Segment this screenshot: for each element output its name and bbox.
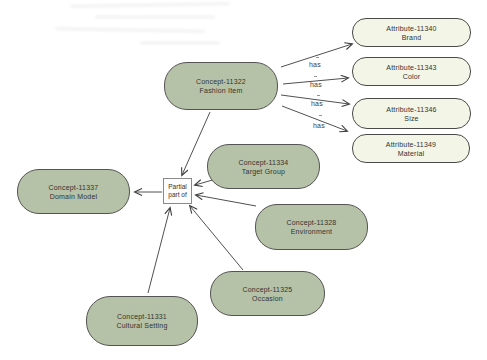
node-attribute-color[interactable]: Attribute-11343 Color [352, 57, 471, 86]
concept-map-canvas: has has has has Concept-11322 Fashion It… [0, 0, 487, 360]
edge-label-has: has [313, 122, 325, 129]
node-label: Color [403, 72, 421, 81]
node-label: Occasion [252, 294, 283, 303]
node-attribute-material[interactable]: Attribute-11349 Material [352, 134, 470, 163]
node-label: Brand [402, 33, 422, 42]
node-cultural-setting[interactable]: Concept-11331 Cultural Setting [86, 296, 198, 346]
node-label: Domain Model [50, 192, 98, 201]
node-label: Fashion Item [200, 86, 243, 95]
relation-box-partial-part-of[interactable]: Partial part of [163, 178, 192, 204]
node-code: Concept-11322 [196, 77, 246, 86]
node-code: Attribute-11349 [386, 140, 436, 149]
node-code: Concept-11337 [49, 183, 99, 192]
node-attribute-brand[interactable]: Attribute-11340 Brand [352, 18, 471, 47]
node-label: Target Group [242, 167, 285, 176]
edge-occasion-to-partial-box [190, 206, 243, 270]
speck [316, 57, 319, 58]
node-occasion[interactable]: Concept-11325 Occasion [210, 271, 325, 316]
node-target-group[interactable]: Concept-11334 Target Group [207, 144, 320, 189]
speck [317, 95, 320, 96]
relation-box-line1: Partial [168, 183, 186, 191]
edge-environment-to-partial-box [196, 195, 256, 206]
node-label: Environment [291, 227, 333, 236]
node-label: Material [398, 149, 425, 158]
node-label: Cultural Setting [116, 321, 167, 330]
node-environment[interactable]: Concept-11328 Environment [255, 204, 368, 250]
node-code: Concept-11331 [117, 312, 167, 321]
edge-label-has: has [311, 100, 323, 107]
node-attribute-size[interactable]: Attribute-11346 Size [352, 98, 471, 129]
edge-label-has: has [310, 81, 322, 88]
node-domain-model[interactable]: Concept-11337 Domain Model [17, 169, 130, 214]
relation-box-line2: part of [168, 191, 186, 199]
node-code: Attribute-11346 [386, 105, 436, 114]
speck [314, 76, 317, 77]
edge-fashion-item-to-partial-box [182, 112, 210, 175]
speck [319, 115, 322, 116]
node-code: Concept-11328 [287, 218, 337, 227]
node-code: Attribute-11343 [386, 63, 436, 72]
node-code: Concept-11334 [239, 158, 289, 167]
node-fashion-item[interactable]: Concept-11322 Fashion Item [164, 62, 278, 110]
node-code: Concept-11325 [243, 285, 293, 294]
edge-cultural-setting-to-partial-box [148, 208, 170, 293]
node-label: Size [404, 114, 418, 123]
node-code: Attribute-11340 [386, 24, 436, 33]
edge-label-has: has [309, 61, 321, 68]
